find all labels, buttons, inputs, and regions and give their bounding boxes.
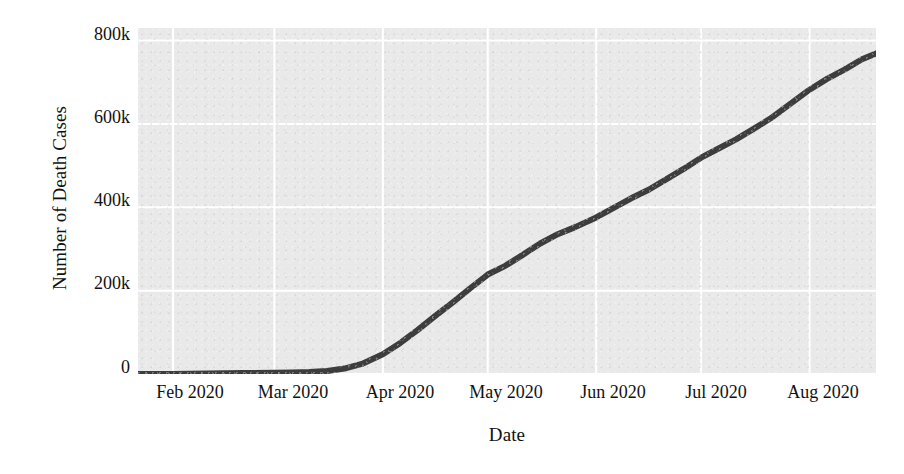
x-axis-label: Date — [138, 424, 876, 446]
x-tick-label: Aug 2020 — [743, 382, 903, 402]
chart-figure: Number of Death Cases 800k 600k 400k 200… — [0, 0, 904, 474]
x-axis-tick-labels: Feb 2020 Mar 2020 Apr 2020 May 2020 Jun … — [0, 0, 904, 474]
